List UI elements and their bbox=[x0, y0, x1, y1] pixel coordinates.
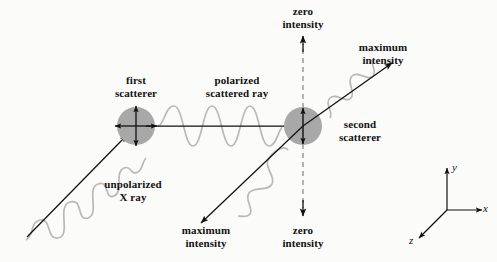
label-maximum-intensity-bottom: maximum intensity bbox=[163, 224, 249, 249]
maximum-intensity-ray-lower-left bbox=[201, 126, 303, 223]
label-polarized-scattered-ray: polarized scattered ray bbox=[184, 74, 290, 99]
z-axis-line bbox=[419, 210, 447, 238]
label-first-scatterer: first scatterer bbox=[104, 74, 168, 99]
maximum-intensity-ray-upper-right bbox=[303, 60, 392, 126]
coordinate-axes bbox=[419, 168, 482, 238]
label-unpolarized-x-ray: unpolarized X ray bbox=[88, 178, 178, 203]
polarized-scattered-ray bbox=[146, 106, 294, 146]
max-lower-axis bbox=[201, 126, 303, 223]
label-zero-intensity-top: zero intensity bbox=[272, 5, 334, 30]
label-maximum-intensity-top: maximum intensity bbox=[340, 41, 426, 66]
diagram-canvas bbox=[0, 0, 497, 262]
axis-label-y: y bbox=[452, 161, 457, 173]
label-second-scatterer: second scatterer bbox=[327, 118, 393, 143]
max-upper-wave bbox=[328, 60, 374, 118]
max-upper-axis bbox=[303, 63, 392, 126]
axis-label-z: z bbox=[409, 234, 413, 246]
scattering-diagram: first scatterer polarized scattered ray … bbox=[0, 0, 497, 262]
axis-label-x: x bbox=[483, 202, 488, 214]
label-zero-intensity-bottom: zero intensity bbox=[272, 224, 334, 249]
max-lower-wave bbox=[238, 148, 288, 217]
